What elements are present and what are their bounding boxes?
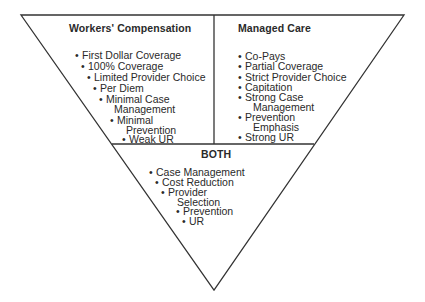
bullet-icon: • [110,115,117,126]
bullet-icon: • [99,94,106,105]
section-title-workers-compensation: Workers' Compensation [69,22,191,34]
bullet-icon: • [238,112,245,123]
section-title-both: BOTH [201,148,231,160]
bullet-icon: • [238,92,245,103]
list-item: •Strong UR [238,132,294,143]
bullet-icon: • [182,216,189,227]
bullet-icon: • [161,187,168,198]
list-item: •Weak UR [122,134,174,145]
bullet-icon: • [238,132,245,143]
section-title-managed-care: Managed Care [238,22,311,34]
bullet-icon: • [122,134,129,145]
list-item: •UR [182,216,204,227]
